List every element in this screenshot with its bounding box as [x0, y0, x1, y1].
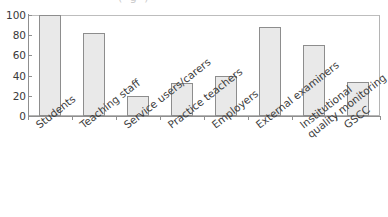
y-axis-tick-label: 40	[0, 71, 26, 81]
y-axis-tick-label: 100	[0, 10, 26, 20]
y-axis-tick-label: 20	[0, 91, 26, 101]
y-axis-tick-label: 80	[0, 30, 26, 40]
clipped-title-text: ( g )	[118, 0, 238, 3]
y-axis-tick-label: 60	[0, 50, 26, 60]
x-axis-labels: StudentsTeaching staffService users/care…	[0, 116, 386, 217]
